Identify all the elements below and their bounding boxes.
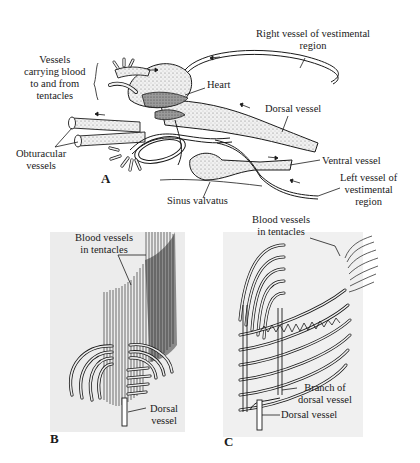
label-line: Blood vessels <box>252 214 310 226</box>
label-line: dorsal vessel <box>298 394 352 406</box>
panel-letter-c: C <box>224 434 233 450</box>
label-branch-dorsal-vessel: Branch of dorsal vessel <box>298 382 352 406</box>
label-dorsal-vessel-c: Dorsal vessel <box>281 409 337 421</box>
label-line: Branch of <box>298 382 352 394</box>
label-blood-vessels-c: Blood vessels in tentacles <box>252 214 310 238</box>
panel-c-drawing <box>0 0 420 463</box>
label-line: in tentacles <box>252 226 310 238</box>
